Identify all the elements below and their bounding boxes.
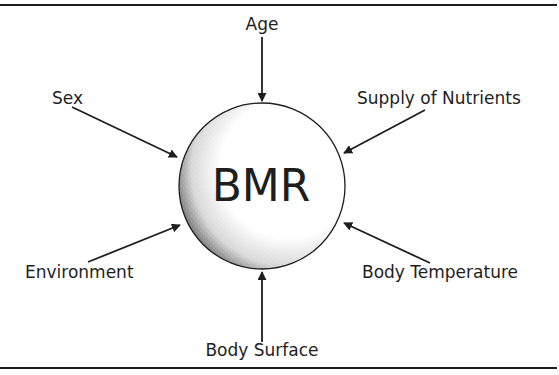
arrow-body-temperature [344, 223, 430, 263]
factor-label-supply-of-nutrients: Supply of Nutrients [357, 88, 521, 108]
bmr-label: BMR [212, 160, 311, 211]
factor-label-body-surface: Body Surface [205, 340, 318, 360]
arrow-environment [88, 225, 180, 262]
factor-label-sex: Sex [52, 88, 83, 108]
factor-label-body-temperature: Body Temperature [362, 262, 518, 282]
factor-label-age: Age [246, 14, 279, 34]
bmr-diagram: BMR Age Sex Supply of Nutrients Environm… [0, 0, 559, 375]
factor-label-environment: Environment [25, 262, 134, 282]
arrow-sex [72, 107, 177, 157]
arrow-supply-of-nutrients [344, 110, 425, 153]
